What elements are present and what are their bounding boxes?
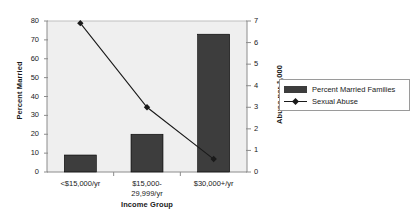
- legend-label: Percent Married Families: [312, 85, 395, 94]
- category-label-line: <$15,000/yr: [42, 179, 118, 189]
- bar: [198, 34, 230, 172]
- category-label: $30,000+/yr: [176, 179, 252, 189]
- category-label-line: $15,000-: [109, 179, 185, 189]
- legend-item-sexual-abuse: Sexual Abuse: [284, 95, 405, 107]
- right-tick-label: 7: [254, 17, 280, 25]
- left-tick-label: 0: [13, 168, 39, 176]
- chart-legend: Percent Married Families Sexual Abuse: [279, 79, 410, 111]
- x-axis-ticks: [114, 172, 181, 176]
- legend-item-percent-married-families: Percent Married Families: [284, 83, 405, 95]
- bar: [64, 155, 96, 172]
- right-tick-label: 0: [254, 168, 280, 176]
- bar-swatch-icon: [284, 86, 307, 93]
- left-tick-label: 80: [13, 17, 39, 25]
- category-label: $15,000-29,999/yr: [109, 179, 185, 198]
- x-axis-title: Income Group: [47, 200, 247, 209]
- line-marker-swatch-icon: [284, 98, 307, 105]
- bar: [131, 134, 163, 172]
- left-tick-label: 10: [13, 149, 39, 157]
- category-label-line: $30,000+/yr: [176, 179, 252, 189]
- left-axis-title: Percent Married: [15, 39, 24, 143]
- category-label: <$15,000/yr: [42, 179, 118, 189]
- category-label-line: 29,999/yr: [109, 189, 185, 199]
- right-tick-label: 1: [254, 146, 280, 154]
- legend-label: Sexual Abuse: [312, 97, 358, 106]
- chart-container: 01020304050607080 01234567 <$15,000/yr$1…: [0, 0, 420, 218]
